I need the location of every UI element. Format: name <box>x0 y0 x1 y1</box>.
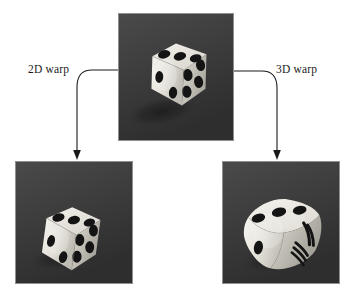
arrow-3d-warp <box>234 71 281 160</box>
warped-2d-die-photo <box>15 161 133 284</box>
label-2d-warp: 2D warp <box>28 64 69 76</box>
source-die-photo <box>118 13 234 141</box>
arrow-3d-warp-head <box>273 150 281 160</box>
figure-root: 2D warp 3D warp <box>0 0 354 293</box>
warped-3d-die-illustration <box>223 162 339 283</box>
arrow-3d-warp-path <box>234 71 277 152</box>
label-3d-warp: 3D warp <box>276 64 317 76</box>
arrow-2d-warp <box>73 70 118 160</box>
source-die-illustration <box>119 14 233 140</box>
warped-2d-die-illustration <box>16 162 132 283</box>
arrow-2d-warp-head <box>73 150 81 160</box>
arrow-2d-warp-path <box>77 70 118 152</box>
warped-3d-die-photo <box>222 161 340 284</box>
